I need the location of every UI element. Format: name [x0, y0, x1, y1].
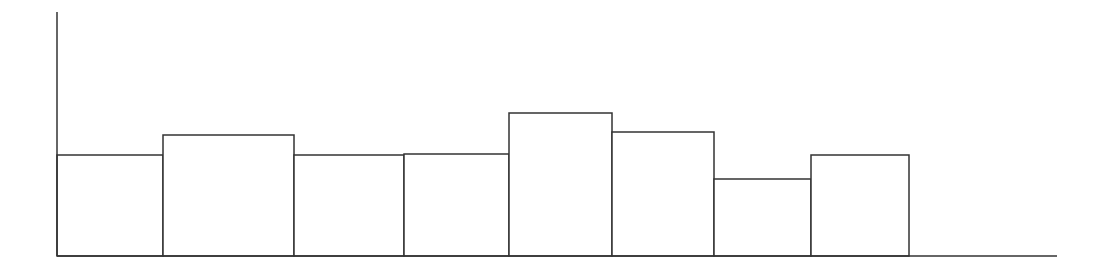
bar-4: [404, 154, 509, 256]
bar-6: [612, 132, 714, 256]
bar-1: [57, 155, 163, 256]
bar-5: [509, 113, 612, 256]
bar-3: [294, 155, 404, 256]
bar-8: [811, 155, 909, 256]
bar-2: [163, 135, 294, 256]
bars-group: [57, 113, 909, 256]
bar-7: [714, 179, 811, 256]
histogram-chart: [0, 0, 1113, 268]
